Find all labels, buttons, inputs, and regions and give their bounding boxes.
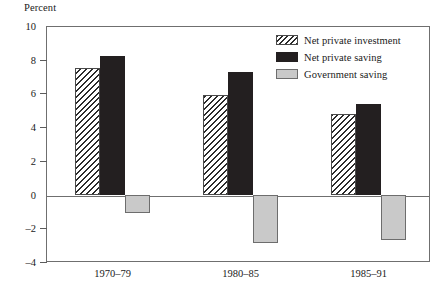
y-axis-tick-label: 6 (0, 88, 36, 99)
y-axis-tick (40, 93, 47, 94)
legend-item: Government saving (276, 67, 401, 81)
y-axis-tick (40, 161, 47, 162)
bar (203, 95, 228, 194)
zero-baseline (46, 196, 430, 197)
bar (356, 104, 381, 195)
y-axis-tick (40, 262, 47, 263)
legend-swatch-icon (276, 35, 298, 45)
legend-item: Net private saving (276, 50, 401, 64)
bar (381, 195, 406, 241)
y-axis-tick-label: 0 (0, 189, 36, 200)
legend-item: Net private investment (276, 33, 401, 47)
x-axis-category-label: 1970–79 (94, 268, 131, 279)
legend-swatch-icon (276, 69, 298, 79)
y-axis-tick-label: –4 (0, 257, 36, 268)
y-axis-tick (40, 127, 47, 128)
legend-swatch-icon (276, 52, 298, 62)
y-axis-tick (40, 60, 47, 61)
legend-item-label: Government saving (304, 69, 387, 80)
chart-legend: Net private investmentNet private saving… (276, 33, 401, 81)
bar (100, 56, 125, 194)
y-axis-tick-label: 2 (0, 155, 36, 166)
x-axis-category-label: 1985–91 (350, 268, 387, 279)
y-axis-tick-label: –2 (0, 223, 36, 234)
y-axis-tick-label: 10 (0, 21, 36, 32)
legend-item-label: Net private saving (304, 52, 382, 63)
bar (125, 195, 150, 214)
y-axis-tick-label: 8 (0, 54, 36, 65)
y-axis-tick (40, 228, 47, 229)
legend-item-label: Net private investment (304, 35, 401, 46)
bar-chart: Percent 1086420–2–4 1970–791980–851985–9… (0, 0, 442, 295)
bar (228, 72, 253, 195)
bar (331, 114, 356, 195)
bar (253, 195, 278, 244)
bar (75, 68, 100, 194)
x-axis-category-label: 1980–85 (222, 268, 259, 279)
y-axis-tick-label: 4 (0, 122, 36, 133)
y-axis-title: Percent (24, 2, 56, 13)
